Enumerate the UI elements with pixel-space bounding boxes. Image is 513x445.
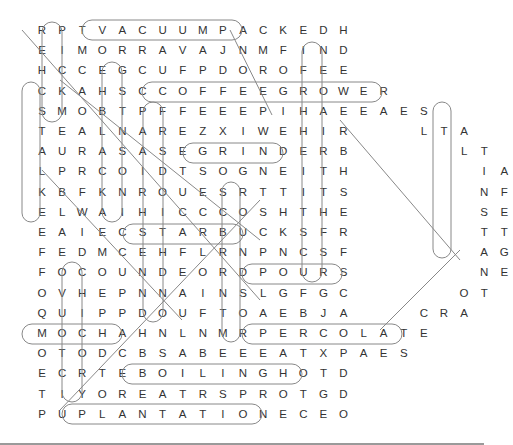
handle-letter[interactable]: E [494, 206, 513, 218]
handle-letter[interactable]: T [494, 226, 513, 238]
handle-letter[interactable]: A [494, 165, 513, 177]
handle-letter[interactable]: G [494, 246, 513, 258]
handle-letter[interactable]: E [494, 266, 513, 278]
handle-letter[interactable]: F [494, 186, 513, 198]
